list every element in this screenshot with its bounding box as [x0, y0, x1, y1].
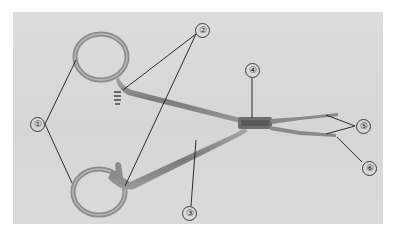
forceps-diagram: ① ② ③ ④ ⑤ ⑥ — [0, 0, 395, 236]
top-shank — [116, 76, 248, 124]
leader-lines — [45, 34, 362, 206]
callout-6: ⑥ — [362, 161, 377, 176]
callout-4: ④ — [245, 63, 260, 78]
top-finger-ring — [75, 34, 127, 80]
top-ratchet — [114, 92, 121, 104]
callout-3: ③ — [182, 206, 197, 221]
bottom-shank — [108, 128, 248, 190]
callout-2: ② — [195, 23, 210, 38]
lower-jaw — [270, 126, 336, 137]
callout-5: ⑤ — [356, 119, 371, 134]
callout-1: ① — [30, 117, 45, 132]
upper-jaw — [270, 113, 338, 124]
